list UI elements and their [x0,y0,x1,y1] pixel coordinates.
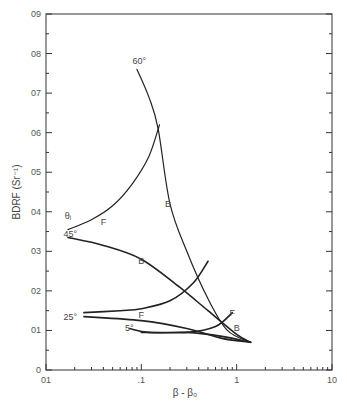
x-tick-label: .1 [138,375,146,385]
y-tick-label: 08 [31,49,41,59]
x-axis-ticks: 01.1110 [41,364,337,385]
curve-label: F [230,308,236,318]
curve-label: F [101,217,107,227]
y-axis-title: BDRF (Sr⁻¹) [11,165,22,220]
curve-label: F [139,310,145,320]
y-tick-label: 02 [31,286,41,296]
y-tick-label: 07 [31,88,41,98]
curve-label: 5° [125,323,134,333]
curve-60-forward-f- [68,125,160,230]
curve-45-forward-f- [84,261,208,312]
curve-label: θᵢ [65,211,71,221]
curve-label: 25° [64,312,78,322]
y-tick-label: 06 [31,128,41,138]
curve-label: B [234,323,240,333]
curve-label: 45° [64,229,78,239]
x-tick-label: 1 [234,375,239,385]
curve-60-backward-b- [137,69,251,342]
curve-label: B [138,256,144,266]
curve-annotations: θᵢ60°45°25°5°FBBFFB [64,56,240,333]
y-tick-label: 0 [36,365,41,375]
y-tick-label: 09 [31,9,41,19]
y-tick-label: 01 [31,325,41,335]
x-tick-label: 10 [327,375,337,385]
curve-label: B [165,199,171,209]
y-tick-label: 05 [31,167,41,177]
x-axis-title: β - β₀ [173,387,198,398]
bdrf-chart: 0010203040506070809 01.1110 θᵢ60°45°25°5… [0,0,347,407]
x-tick-label: 01 [41,375,51,385]
y-tick-label: 04 [31,207,41,217]
curve-label: 60° [132,56,146,66]
y-tick-label: 03 [31,246,41,256]
curve-25-backward-b- [84,317,251,343]
curve-45-backward-b- [68,238,251,343]
curves [68,69,251,342]
